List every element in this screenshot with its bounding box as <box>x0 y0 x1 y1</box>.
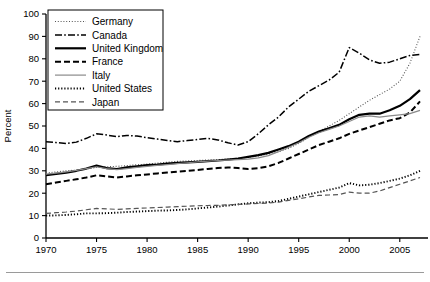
line-chart-canvas: 0102030405060708090100197019751980198519… <box>0 0 430 282</box>
y-tick-label: 10 <box>28 210 39 221</box>
legend-label-canada: Canada <box>92 30 127 41</box>
y-tick-label: 80 <box>28 53 39 64</box>
x-tick-label: 1990 <box>238 244 259 255</box>
x-tick-label: 1995 <box>288 244 309 255</box>
legend-label-france: France <box>92 56 124 67</box>
x-tick-label: 2000 <box>339 244 360 255</box>
series-line-japan <box>46 178 420 214</box>
x-tick-label: 1970 <box>35 244 56 255</box>
series-line-italy <box>46 110 420 174</box>
y-tick-label: 60 <box>28 98 39 109</box>
x-tick-label: 1975 <box>86 244 107 255</box>
legend-label-japan: Japan <box>92 97 119 108</box>
x-tick-label: 2005 <box>389 244 410 255</box>
chart-figure: 0102030405060708090100197019751980198519… <box>0 0 430 282</box>
legend-label-italy: Italy <box>92 70 110 81</box>
x-tick-label: 1985 <box>187 244 208 255</box>
legend-label-united-kingdom: United Kingdom <box>92 43 163 54</box>
y-tick-label: 50 <box>28 120 39 131</box>
x-tick-label: 1980 <box>137 244 158 255</box>
legend-label-germany: Germany <box>92 16 133 27</box>
y-tick-label: 100 <box>23 8 39 19</box>
y-tick-label: 30 <box>28 165 39 176</box>
y-tick-label: 70 <box>28 76 39 87</box>
y-tick-label: 20 <box>28 188 39 199</box>
legend-label-united-states: United States <box>92 83 152 94</box>
y-tick-label: 40 <box>28 143 39 154</box>
y-tick-label: 90 <box>28 31 39 42</box>
y-axis-title: Percent <box>2 109 13 142</box>
y-tick-label: 0 <box>34 232 39 243</box>
